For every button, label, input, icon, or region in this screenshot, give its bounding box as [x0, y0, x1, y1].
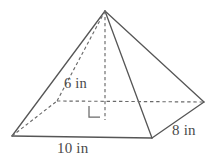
edge-base-front-bottom — [12, 136, 152, 138]
edge-apex-to-back-right — [105, 11, 204, 102]
pyramid-figure: 6 in 10 in 8 in — [0, 0, 209, 163]
solid-edges-group — [12, 11, 204, 138]
height-dimension-label: 6 in — [64, 76, 87, 91]
edge-base-back-horizontal-hidden — [57, 101, 204, 102]
edge-apex-to-front-right — [105, 11, 152, 138]
pyramid-drawing — [0, 0, 209, 163]
dashed-hidden-edges-group — [12, 11, 204, 136]
base-width-dimension-label: 8 in — [172, 123, 196, 138]
right-angle-marker — [89, 106, 100, 117]
base-length-dimension-label: 10 in — [57, 141, 88, 156]
